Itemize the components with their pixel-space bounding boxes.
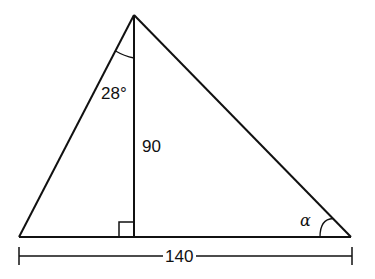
- apex-angle-arc: [116, 51, 134, 58]
- left-side: [19, 15, 134, 237]
- apex-angle-label: 28°: [101, 85, 127, 102]
- base-length-label: 140: [165, 248, 193, 265]
- right-angle-marker: [119, 222, 134, 237]
- alpha-angle-arc: [320, 219, 333, 238]
- right-side: [134, 15, 351, 237]
- alpha-label: α: [300, 213, 311, 229]
- triangle-diagram: [0, 0, 375, 279]
- altitude-label: 90: [142, 138, 161, 155]
